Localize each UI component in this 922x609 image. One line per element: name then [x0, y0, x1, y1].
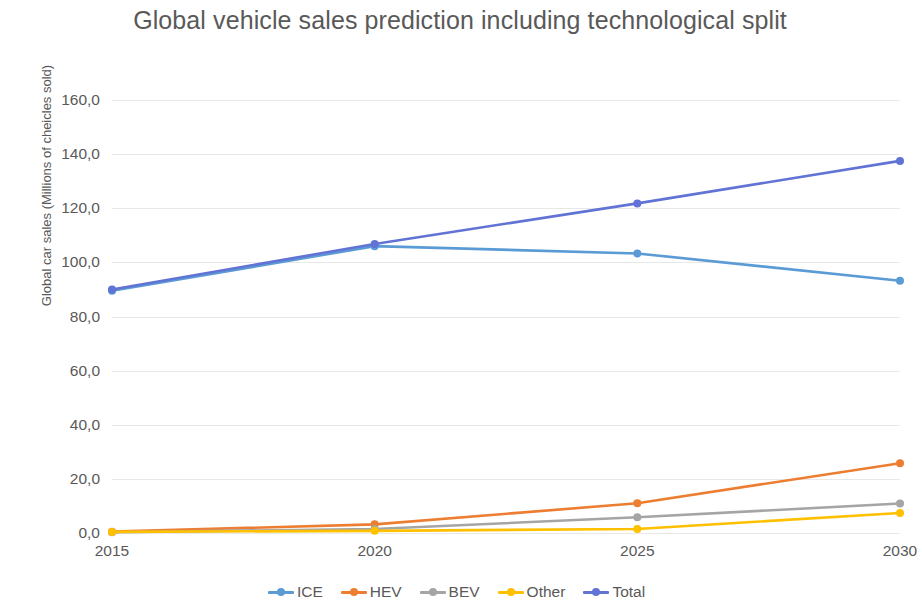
x-axis-tick-label: 2030: [840, 542, 922, 560]
legend-swatch-icon: [341, 586, 367, 598]
data-point: [896, 509, 904, 517]
chart-title-line-1: Global vehicle sales prediction includin…: [133, 6, 735, 34]
legend-item-label: HEV: [369, 583, 402, 601]
legend-item-total[interactable]: Total: [583, 583, 645, 601]
y-axis-tick-label: 0,0: [30, 524, 100, 542]
series-line: [112, 161, 900, 290]
y-axis-tick-label: 20,0: [30, 470, 100, 488]
data-point: [108, 285, 116, 293]
y-axis-tick-label: 140,0: [30, 145, 100, 163]
plot-area: [112, 100, 900, 533]
data-point: [896, 459, 904, 467]
legend-item-other[interactable]: Other: [498, 583, 566, 601]
y-axis-tick-label: 120,0: [30, 199, 100, 217]
data-point: [633, 199, 641, 207]
data-point: [633, 499, 641, 507]
x-axis-tick-label: 2015: [52, 542, 172, 560]
legend-swatch-icon: [268, 586, 294, 598]
legend-swatch-icon: [583, 586, 609, 598]
legend-item-label: Other: [526, 583, 566, 601]
legend-item-label: Total: [611, 583, 645, 601]
chart-title: Global vehicle sales prediction includin…: [90, 4, 830, 36]
x-axis-tick-labels: 2015202020252030: [112, 542, 900, 568]
y-axis-tick-label: 60,0: [30, 362, 100, 380]
series-total: [108, 157, 904, 294]
y-axis-tick-labels: 0,020,040,060,080,0100,0120,0140,0160,0: [26, 100, 100, 533]
data-point: [896, 277, 904, 285]
data-point: [633, 525, 641, 533]
x-axis-tick-label: 2020: [315, 542, 435, 560]
data-point: [633, 513, 641, 521]
data-point: [371, 240, 379, 248]
y-axis-tick-label: 40,0: [30, 416, 100, 434]
series-layer: [112, 100, 900, 533]
data-point: [108, 528, 116, 536]
data-point: [896, 157, 904, 165]
legend-item-bev[interactable]: BEV: [420, 583, 480, 601]
gridline: [112, 533, 900, 534]
legend-item-label: ICE: [296, 583, 323, 601]
chart-title-line-2: split: [742, 6, 787, 34]
legend-swatch-icon: [498, 586, 524, 598]
legend-swatch-icon: [420, 586, 446, 598]
y-axis-tick-label: 160,0: [30, 91, 100, 109]
data-point: [896, 500, 904, 508]
chart-legend: ICEHEVBEVOtherTotal: [0, 583, 913, 601]
data-point: [633, 249, 641, 257]
x-axis-tick-label: 2025: [577, 542, 697, 560]
y-axis-tick-label: 80,0: [30, 308, 100, 326]
legend-item-ice[interactable]: ICE: [268, 583, 323, 601]
legend-item-hev[interactable]: HEV: [341, 583, 402, 601]
data-point: [371, 527, 379, 535]
y-axis-tick-label: 100,0: [30, 253, 100, 271]
legend-item-label: BEV: [448, 583, 480, 601]
